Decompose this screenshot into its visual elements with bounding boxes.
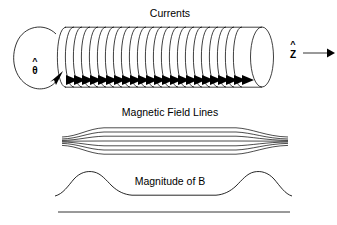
field-line xyxy=(62,142,288,146)
solenoid-end-cap xyxy=(251,27,274,87)
magnetic-field-lines xyxy=(62,128,288,154)
z-arrowhead xyxy=(327,49,335,58)
physics-diagram-solenoid: Currents ^ θ xyxy=(0,0,337,225)
field-line xyxy=(62,128,288,137)
unit-vector-theta: ^ θ xyxy=(32,56,38,76)
diagram-canvas: Currents ^ θ xyxy=(0,0,337,225)
label-magnetic-field-lines: Magnetic Field Lines xyxy=(122,106,218,118)
field-line xyxy=(62,136,288,140)
current-arrowhead xyxy=(242,75,254,85)
theta-symbol: θ xyxy=(32,65,37,76)
label-currents: Currents xyxy=(150,7,190,19)
z-hat-caret: ^ xyxy=(290,39,296,49)
z-symbol: Z xyxy=(290,49,296,60)
current-arrowheads xyxy=(66,75,254,85)
z-axis-arrow xyxy=(303,49,335,58)
unit-vector-z: ^ Z xyxy=(290,39,296,60)
label-magnitude-of-b: Magnitude of B xyxy=(135,175,206,187)
theta-direction-arc xyxy=(14,27,63,89)
solenoid-coils xyxy=(57,27,273,87)
